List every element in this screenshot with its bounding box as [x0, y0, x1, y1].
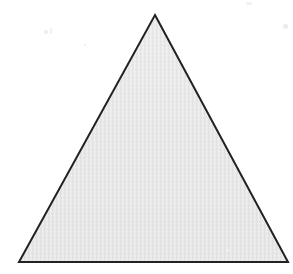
- figure-canvas: [0, 0, 293, 274]
- triangle-figure: [0, 0, 293, 274]
